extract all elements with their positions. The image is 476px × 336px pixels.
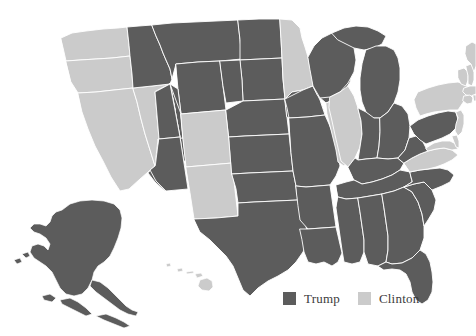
state-ND[interactable] [238, 19, 282, 60]
state-HI-big-island[interactable] [198, 278, 213, 291]
state-AK-aleutian-1[interactable] [22, 252, 30, 258]
state-AK-island-3[interactable] [96, 314, 130, 328]
state-CO[interactable] [181, 110, 232, 167]
state-AK-aleutian-2[interactable] [14, 258, 22, 264]
state-AK-island-1[interactable] [42, 294, 56, 302]
map-legend: Trump Clinton [283, 286, 419, 310]
state-AK[interactable] [30, 200, 122, 296]
alaska-inset-group [14, 200, 138, 328]
state-WA[interactable] [61, 27, 130, 61]
state-NM[interactable] [186, 163, 238, 219]
election-map-page: Trump Clinton [0, 0, 476, 336]
state-AK-panhandle[interactable] [90, 280, 138, 316]
state-MA[interactable] [463, 86, 476, 96]
state-HI-oahu[interactable] [177, 268, 183, 272]
state-CT[interactable] [463, 95, 473, 104]
legend-item-trump[interactable]: Trump [283, 292, 340, 305]
hawaii-inset-group [166, 263, 213, 291]
state-HI-kauai[interactable] [166, 263, 171, 267]
us-election-choropleth-figure: Trump Clinton [0, 0, 476, 336]
state-OK[interactable] [232, 171, 298, 203]
state-AK-island-2[interactable] [60, 298, 92, 316]
legend-label-trump: Trump [304, 292, 340, 305]
lower-48-states-group [61, 19, 476, 304]
state-HI-molokai[interactable] [186, 271, 194, 274]
state-SD[interactable] [240, 58, 285, 101]
state-NJ[interactable] [455, 110, 464, 136]
legend-item-clinton[interactable]: Clinton [358, 292, 419, 305]
state-HI-maui[interactable] [195, 273, 203, 278]
legend-label-clinton: Clinton [379, 292, 419, 305]
state-AR[interactable] [296, 185, 336, 229]
state-LA[interactable] [300, 227, 342, 266]
legend-swatch-clinton [358, 292, 371, 305]
state-WY[interactable] [176, 61, 226, 114]
state-KS[interactable] [229, 134, 293, 174]
state-NE[interactable] [226, 99, 289, 137]
legend-swatch-trump [283, 292, 296, 305]
state-OR[interactable] [66, 56, 133, 93]
